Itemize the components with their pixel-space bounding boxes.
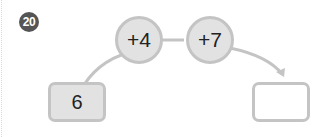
answer-box[interactable]	[252, 82, 310, 122]
operation-bubble-1: +4	[115, 16, 163, 64]
start-value-box: 6	[48, 82, 106, 122]
operation-bubble-2: +7	[186, 16, 234, 64]
